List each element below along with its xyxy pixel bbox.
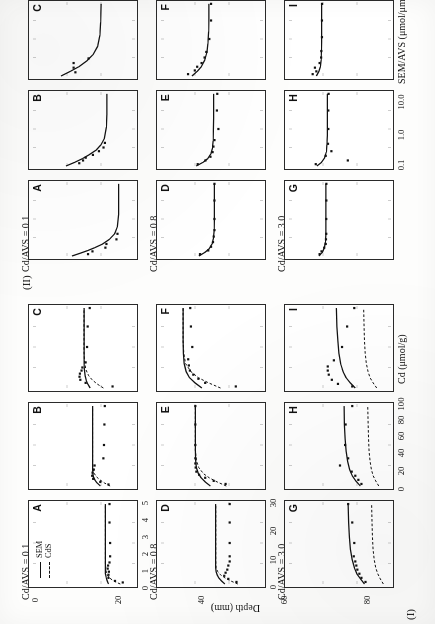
data-point	[216, 93, 218, 95]
data-point	[323, 247, 325, 249]
panel-II-C[interactable]: C	[28, 0, 138, 80]
panel-I-E-plot	[157, 402, 266, 489]
panel-I-D-plot	[157, 500, 266, 587]
data-point	[108, 503, 110, 505]
legend-key-dashed-icon	[49, 562, 50, 578]
data-point	[213, 229, 215, 231]
panel-I-A[interactable]: A SEM CdS	[28, 500, 138, 588]
data-point	[364, 581, 366, 583]
data-point	[91, 250, 93, 252]
data-point	[73, 62, 75, 64]
data-point	[328, 93, 330, 95]
data-point	[319, 253, 321, 255]
data-point	[73, 67, 75, 69]
data-point	[194, 462, 196, 464]
data-point	[194, 69, 196, 71]
data-point	[229, 555, 231, 557]
data-point	[108, 521, 110, 523]
data-point	[320, 50, 322, 52]
panel-II-E-plot	[157, 90, 266, 169]
data-point	[325, 238, 327, 240]
data-point	[320, 56, 322, 58]
data-point	[92, 154, 94, 156]
data-point	[195, 466, 197, 468]
data-point	[108, 561, 110, 563]
series-cds	[368, 406, 379, 486]
data-point	[188, 364, 190, 366]
data-point	[227, 564, 229, 566]
panel-I-C[interactable]: C	[28, 304, 138, 392]
panel-I-G[interactable]: G	[284, 500, 394, 588]
cd-r3-tick-20: 20	[396, 464, 406, 478]
data-point	[108, 571, 110, 573]
data-point	[315, 70, 317, 72]
panel-II-I[interactable]: I	[284, 0, 394, 80]
data-point	[198, 474, 200, 476]
panel-I-B[interactable]: B	[28, 402, 138, 490]
data-point	[225, 572, 227, 574]
data-point	[98, 150, 100, 152]
data-point	[357, 479, 359, 481]
data-point	[194, 405, 196, 407]
data-point	[321, 3, 323, 5]
data-point	[195, 471, 197, 473]
panel-II-I-plot	[285, 0, 394, 79]
panel-II-A[interactable]: A	[28, 180, 138, 260]
panel-I-I[interactable]: I	[284, 304, 394, 392]
data-point	[212, 241, 214, 243]
panel-II-F[interactable]: F	[156, 0, 266, 80]
series-sem-avs	[196, 94, 214, 166]
panel-letter-II-C: C	[31, 4, 43, 12]
data-point	[102, 146, 104, 148]
panel-I-D[interactable]: D	[156, 500, 266, 588]
panel-I-F[interactable]: F	[156, 304, 266, 392]
data-point	[189, 307, 191, 309]
series-cds	[216, 504, 238, 584]
panel-letter-I-A: A	[31, 504, 43, 512]
data-point	[344, 444, 346, 446]
data-point	[87, 253, 89, 255]
data-point	[333, 359, 335, 361]
data-point	[229, 542, 231, 544]
data-point	[210, 19, 212, 21]
data-point	[319, 62, 321, 64]
panel-II-E[interactable]: E	[156, 90, 266, 170]
data-point	[81, 366, 83, 368]
data-point	[325, 233, 327, 235]
data-point	[85, 361, 87, 363]
data-point	[351, 471, 353, 473]
panel-I-H[interactable]: H	[284, 402, 394, 490]
axis-title-cd: Cd (μmol/g)	[396, 334, 407, 384]
data-point	[115, 238, 117, 240]
panel-II-B[interactable]: B	[28, 90, 138, 170]
panel-II-G[interactable]: G	[284, 180, 394, 260]
data-point	[229, 503, 231, 505]
data-point	[87, 57, 89, 59]
data-point	[85, 382, 87, 384]
panel-II-B-plot	[29, 90, 138, 169]
data-point	[312, 73, 314, 75]
series-sem-avs	[66, 94, 107, 166]
panel-I-C-plot	[29, 304, 138, 391]
data-point	[204, 477, 206, 479]
panel-letter-II-G: G	[287, 184, 299, 192]
panel-II-H[interactable]: H	[284, 90, 394, 170]
data-point	[89, 307, 91, 309]
data-point	[330, 150, 332, 152]
data-point	[94, 464, 96, 466]
data-point	[187, 73, 189, 75]
panel-I-E[interactable]: E	[156, 402, 266, 490]
data-point	[92, 478, 94, 480]
data-point	[102, 457, 104, 459]
panel-letter-I-G: G	[287, 504, 299, 512]
data-point	[87, 325, 89, 327]
data-point	[191, 346, 193, 348]
data-point	[104, 247, 106, 249]
data-point	[107, 568, 109, 570]
data-point	[213, 199, 215, 201]
panel-II-D[interactable]: D	[156, 180, 266, 260]
data-point	[346, 325, 348, 327]
cd-r3-tick-100: 100	[396, 396, 406, 412]
data-point	[353, 542, 355, 544]
data-point	[356, 569, 358, 571]
